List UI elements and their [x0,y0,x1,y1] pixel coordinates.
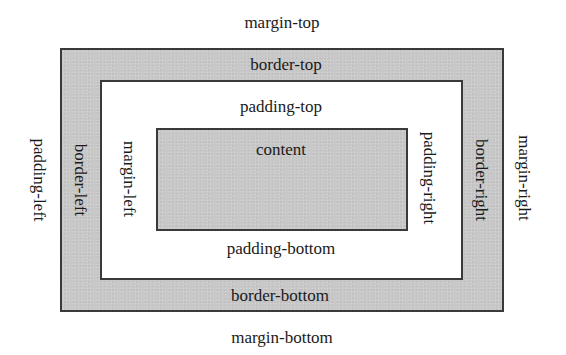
border-left-label: border-left [70,144,90,216]
border-bottom-label: border-bottom [231,286,329,306]
padding-top-label: padding-top [240,97,322,117]
inner-left-label: margin-left [119,141,139,217]
content-label: content [256,140,306,160]
margin-top-label: margin-top [244,13,319,33]
border-top-label: border-top [250,55,321,75]
border-right-label: border-right [471,139,491,221]
padding-bottom-label: padding-bottom [227,239,336,259]
margin-bottom-label: margin-bottom [231,328,333,348]
padding-right-label: padding-right [419,132,439,225]
outer-left-label: padding-left [29,138,49,221]
margin-right-label: margin-right [514,135,534,221]
